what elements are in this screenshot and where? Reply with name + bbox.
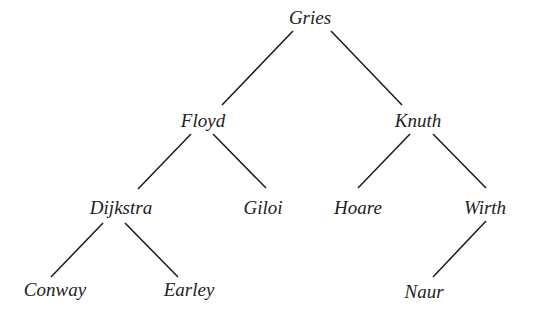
edge-knuth-hoare	[358, 134, 410, 188]
edge-gries-floyd	[222, 31, 293, 105]
edge-dijkstra-earley	[125, 223, 178, 277]
tree-diagram: Gries Floyd Knuth Dijkstra Giloi Hoare W…	[0, 0, 555, 318]
edge-dijkstra-conway	[51, 223, 103, 277]
node-dijkstra: Dijkstra	[89, 197, 152, 218]
node-hoare: Hoare	[333, 197, 382, 218]
node-earley: Earley	[163, 279, 215, 300]
edge-knuth-wirth	[433, 134, 486, 188]
node-gries: Gries	[289, 7, 331, 28]
edge-gries-knuth	[331, 31, 402, 105]
node-giloi: Giloi	[243, 197, 282, 218]
edge-floyd-giloi	[213, 134, 266, 188]
edge-wirth-naur	[433, 221, 486, 277]
node-conway: Conway	[24, 279, 87, 300]
node-floyd: Floyd	[180, 110, 226, 131]
nodes: Gries Floyd Knuth Dijkstra Giloi Hoare W…	[24, 7, 506, 302]
node-knuth: Knuth	[394, 110, 441, 131]
node-naur: Naur	[403, 281, 444, 302]
edge-floyd-dijkstra	[138, 134, 191, 189]
edges	[51, 31, 486, 277]
node-wirth: Wirth	[464, 197, 506, 218]
